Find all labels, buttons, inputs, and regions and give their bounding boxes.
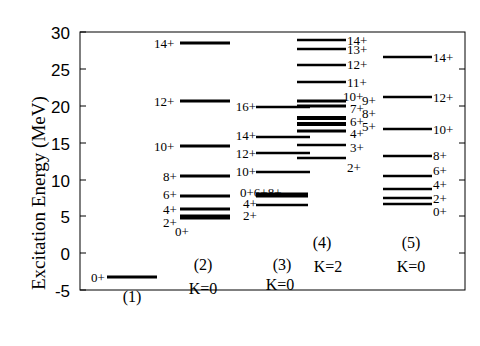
ytick-neg5: -5 — [55, 282, 70, 301]
column-5-labels: 14+ 12+ 10+ 8+ 6+ 4+ 2+ 0+ — [433, 50, 453, 219]
svg-text:16+: 16+ — [236, 99, 256, 114]
svg-text:4+: 4+ — [350, 126, 364, 141]
svg-text:2+: 2+ — [347, 160, 361, 175]
ytick-0: 0 — [61, 245, 70, 264]
svg-text:6+: 6+ — [163, 187, 177, 202]
svg-text:11+: 11+ — [347, 75, 367, 90]
svg-text:13+: 13+ — [347, 42, 367, 57]
band-labels: (1) (2) K=0 (3) K=0 (4) K=2 (5) K=0 — [123, 234, 426, 306]
svg-text:12+: 12+ — [154, 94, 174, 109]
svg-text:12+: 12+ — [433, 90, 453, 105]
column-1: 0+ — [91, 270, 157, 285]
ytick-20: 20 — [51, 98, 70, 117]
svg-text:3+: 3+ — [350, 140, 364, 155]
column-4-labels: 14+ 13+ 12+ 11+ 10+ 9+ 7+ 8+ 6+ 5+ 4+ 3+… — [343, 33, 376, 175]
svg-text:12+: 12+ — [236, 146, 256, 161]
ytick-15: 15 — [51, 135, 70, 154]
y-ticks-right — [459, 69, 465, 253]
column-4 — [297, 40, 346, 158]
svg-text:12+: 12+ — [347, 57, 367, 72]
plot-frame — [80, 32, 465, 290]
column-5 — [383, 57, 432, 204]
band-3-k: K=0 — [266, 276, 295, 293]
column-2 — [180, 43, 230, 217]
y-ticks-left — [80, 32, 86, 290]
svg-text:4+: 4+ — [433, 177, 447, 192]
ytick-10: 10 — [51, 172, 70, 191]
svg-text:6+: 6+ — [433, 163, 447, 178]
band-2-k: K=0 — [189, 280, 218, 297]
svg-text:10+: 10+ — [236, 164, 256, 179]
level-label: 0+ — [91, 270, 105, 285]
svg-text:10+: 10+ — [154, 139, 174, 154]
level-scheme-chart: 30 25 20 15 10 5 0 -5 Excitation Energy … — [0, 0, 480, 346]
band-5-k: K=0 — [397, 258, 426, 275]
svg-text:8+: 8+ — [163, 169, 177, 184]
y-axis-label: Excitation Energy (MeV) — [28, 96, 50, 290]
svg-text:14+: 14+ — [236, 128, 256, 143]
ytick-5: 5 — [61, 208, 70, 227]
ytick-30: 30 — [51, 24, 70, 43]
band-3-name: (3) — [273, 256, 292, 274]
band-2-name: (2) — [194, 256, 213, 274]
band-5-name: (5) — [402, 234, 421, 252]
svg-text:0+: 0+ — [433, 204, 447, 219]
band-4-name: (4) — [313, 234, 332, 252]
y-tick-labels: 30 25 20 15 10 5 0 -5 — [51, 24, 70, 301]
ytick-25: 25 — [51, 61, 70, 80]
band-1-name: (1) — [123, 288, 142, 306]
band-4-k: K=2 — [314, 258, 343, 275]
svg-text:14+: 14+ — [433, 50, 453, 65]
svg-text:10+: 10+ — [433, 122, 453, 137]
svg-text:2+: 2+ — [243, 208, 257, 223]
svg-text:8+: 8+ — [433, 148, 447, 163]
svg-text:14+: 14+ — [154, 36, 174, 51]
svg-text:0+: 0+ — [175, 224, 189, 239]
svg-text:5+: 5+ — [362, 119, 376, 134]
